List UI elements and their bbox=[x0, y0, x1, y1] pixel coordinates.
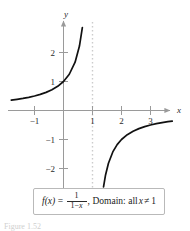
denominator-x: x bbox=[79, 201, 83, 210]
fraction: 1 1−x bbox=[67, 192, 87, 210]
fraction-numerator: 1 bbox=[73, 192, 81, 200]
figure-caption: Figure 1.52 bbox=[4, 222, 41, 231]
domain-variable: x bbox=[139, 197, 143, 207]
formula-box: f(x) = 1 1−x , Domain: all x ≠ 1 bbox=[33, 188, 165, 215]
figure-container: −1 1 2 3 2 1 −1 −2 x y f(x) = 1 1−x , Do… bbox=[0, 0, 190, 231]
excluded-value: 1 bbox=[151, 197, 156, 207]
not-equal-sign: ≠ bbox=[144, 197, 149, 207]
y-tick-label-2: 2 bbox=[51, 48, 56, 58]
function-name: f(x) bbox=[42, 197, 55, 207]
equals-sign: = bbox=[58, 197, 63, 207]
x-tick-label-neg1: −1 bbox=[30, 116, 40, 126]
x-tick-label-1: 1 bbox=[90, 116, 95, 126]
formula-comma: , bbox=[88, 197, 90, 207]
y-tick-label-neg1: −1 bbox=[45, 135, 55, 145]
y-axis-label: y bbox=[63, 9, 68, 19]
curve-left-branch bbox=[11, 28, 82, 101]
y-tick-label-neg2: −2 bbox=[45, 164, 55, 174]
x-tick-label-2: 2 bbox=[119, 116, 124, 126]
curve-right-branch bbox=[104, 121, 173, 187]
x-axis-label: x bbox=[176, 105, 181, 115]
formula-expression: f(x) = 1 1−x , Domain: all x ≠ 1 bbox=[42, 193, 156, 211]
fraction-denominator: 1−x bbox=[69, 202, 85, 210]
domain-word: Domain: bbox=[92, 197, 125, 207]
y-tick-label-1: 1 bbox=[51, 77, 56, 87]
all-word: all bbox=[128, 197, 138, 207]
